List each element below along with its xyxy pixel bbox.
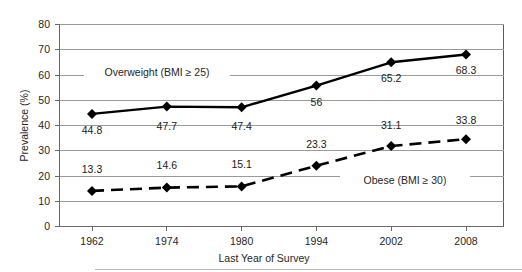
data-point-marker — [461, 50, 471, 60]
line-chart: 80 70 60 50 40 30 20 10 0 1962 1974 1980… — [0, 0, 522, 272]
y-axis-title: Prevalence (%) — [18, 90, 30, 162]
x-tick-label: 1974 — [155, 235, 179, 247]
data-label: 14.6 — [157, 159, 178, 171]
data-label: 33.8 — [456, 114, 477, 126]
y-tick-label: 20 — [38, 170, 50, 182]
data-point-marker — [311, 161, 321, 171]
series-label-overweight: Overweight (BMI ≥ 25) — [105, 66, 210, 78]
y-tick-label: 40 — [38, 119, 50, 131]
x-tick-label: 1962 — [80, 235, 104, 247]
x-tick-label: 1994 — [305, 235, 329, 247]
data-label: 44.8 — [82, 124, 103, 136]
data-label: 15.1 — [231, 158, 252, 170]
x-tick-label: 1980 — [230, 235, 254, 247]
y-tick-label: 30 — [38, 144, 50, 156]
x-tick-label: 2008 — [454, 235, 478, 247]
series-label-obese: Obese (BMI ≥ 30) — [364, 174, 447, 186]
y-tick-label: 80 — [38, 18, 50, 30]
data-point-marker — [237, 181, 247, 191]
data-point-marker — [162, 102, 172, 112]
y-tick-label: 60 — [38, 69, 50, 81]
x-tickmarks — [92, 227, 466, 232]
x-tick-label: 2002 — [380, 235, 404, 247]
data-label: 56 — [311, 96, 323, 108]
series-line-overweight — [92, 55, 466, 114]
data-point-marker — [237, 102, 247, 112]
data-label: 68.3 — [456, 64, 477, 76]
data-point-marker — [311, 81, 321, 91]
data-label: 65.2 — [381, 72, 402, 84]
data-label: 47.4 — [231, 120, 252, 132]
x-axis-title: Last Year of Survey — [218, 252, 310, 264]
y-tick-labels: 80 70 60 50 40 30 20 10 0 — [38, 18, 50, 232]
y-tick-label: 70 — [38, 43, 50, 55]
data-point-marker — [87, 109, 97, 119]
data-label: 31.1 — [381, 119, 402, 131]
chart-figure: 80 70 60 50 40 30 20 10 0 1962 1974 1980… — [0, 0, 522, 272]
y-tick-label: 50 — [38, 94, 50, 106]
data-point-marker — [87, 186, 97, 196]
x-tick-labels: 1962 1974 1980 1994 2002 2008 — [80, 235, 478, 247]
y-tick-label: 10 — [38, 195, 50, 207]
data-point-marker — [461, 134, 471, 144]
data-label: 47.7 — [157, 120, 178, 132]
data-point-marker — [386, 141, 396, 151]
data-point-marker — [162, 183, 172, 193]
data-label: 13.3 — [82, 163, 103, 175]
data-label: 23.3 — [306, 138, 327, 150]
y-tick-label: 0 — [44, 220, 50, 232]
y-tickmarks — [55, 25, 60, 227]
data-point-marker — [386, 57, 396, 67]
